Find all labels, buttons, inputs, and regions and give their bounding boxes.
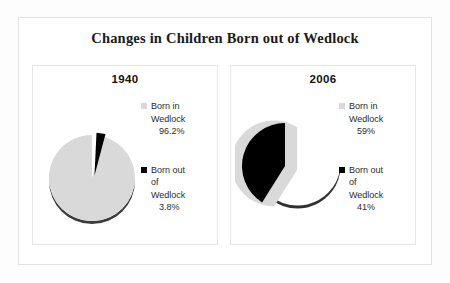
legend-item-born-in-wedlock-2006: Born in Wedlock 59% (339, 100, 411, 138)
gray-swatch-icon (339, 103, 345, 109)
legend-label-line3: Wedlock (349, 189, 411, 202)
legend-label-line1: Born out (349, 164, 411, 177)
legend-label-line2: of (151, 176, 213, 189)
legend-label-line1: Born out (151, 164, 213, 177)
legend-item-born-out-of-wedlock-1940: Born out of Wedlock 3.8% (141, 164, 213, 214)
chart-figure: Changes in Children Born out of Wedlock … (0, 0, 450, 283)
panel-2006: 2006 Born in Wedlock 59% (230, 65, 416, 245)
pie-chart-2006 (235, 96, 345, 241)
legend-item-born-out-of-wedlock-2006: Born out of Wedlock 41% (339, 164, 411, 214)
legend-value: 96.2% (151, 125, 213, 138)
black-swatch-icon (339, 167, 345, 173)
legend-label-line1: Born in (151, 100, 213, 113)
page-title: Changes in Children Born out of Wedlock (18, 30, 432, 47)
panel-title-2006: 2006 (231, 73, 415, 85)
pie-svg-1940 (37, 96, 147, 241)
panel-1940: 1940 Born in Wedlock 96.2% (32, 65, 218, 245)
legend-label-line1: Born in (349, 100, 411, 113)
legend-value: 59% (349, 125, 411, 138)
pie-svg-2006 (235, 96, 345, 241)
legend-value: 3.8% (151, 201, 213, 214)
legend-item-born-in-wedlock-1940: Born in Wedlock 96.2% (141, 100, 213, 138)
legend-label-line3: Wedlock (151, 189, 213, 202)
pie-chart-1940 (37, 96, 147, 241)
legend-label-line2: of (349, 176, 411, 189)
black-swatch-icon (141, 167, 147, 173)
legend-2006: Born in Wedlock 59% Born out of Wedlock … (339, 98, 411, 214)
pie-slice-born-in-wedlock-1940 (49, 135, 135, 221)
legend-label-line2: Wedlock (151, 113, 213, 126)
panel-title-1940: 1940 (33, 73, 217, 85)
legend-label-line2: Wedlock (349, 113, 411, 126)
legend-1940: Born in Wedlock 96.2% Born out of Wedloc… (141, 98, 213, 214)
legend-value: 41% (349, 201, 411, 214)
gray-swatch-icon (141, 103, 147, 109)
